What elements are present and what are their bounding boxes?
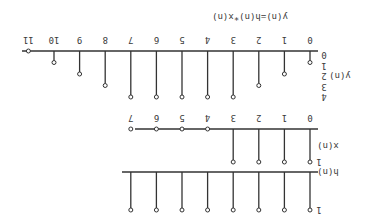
x-xtick-1: 1	[282, 113, 287, 123]
y-stem-marker	[129, 95, 133, 99]
h-stem-marker	[154, 208, 158, 212]
x-xtick-4: 4	[205, 113, 210, 123]
y-stem-marker	[154, 95, 158, 99]
y-xtick-10: 10	[49, 35, 60, 45]
h-ylabel: h(n)	[317, 167, 339, 177]
y-stem-marker	[257, 84, 261, 88]
x-stem-marker	[129, 127, 133, 131]
x-xtick-7: 7	[128, 113, 133, 123]
x-xtick-0: 0	[307, 113, 312, 123]
y-ytick-3: 3	[321, 82, 326, 92]
y-xtick-9: 9	[77, 35, 82, 45]
h-stem-marker	[231, 208, 235, 212]
y-stem-marker	[231, 95, 235, 99]
convolution-figure: h(n)1x(n)101234567y(n)012340123456789101…	[0, 0, 377, 223]
y-ylabel: y(n)	[329, 71, 351, 81]
x-stem-marker	[231, 160, 235, 164]
x-xtick-5: 5	[179, 113, 184, 123]
y-xtick-11: 11	[23, 35, 34, 45]
x-stem-marker	[206, 127, 210, 131]
y-stem-marker	[26, 49, 30, 53]
y-stem-marker	[52, 61, 56, 65]
stem-plots: h(n)1x(n)101234567y(n)012340123456789101…	[0, 0, 377, 223]
x-stem-marker	[282, 160, 286, 164]
y-xtick-5: 5	[179, 35, 184, 45]
x-xtick-2: 2	[256, 113, 261, 123]
h-stem-marker	[129, 208, 133, 212]
y-xtick-1: 1	[282, 35, 287, 45]
y-xtick-7: 7	[128, 35, 133, 45]
h-stem-marker	[206, 208, 210, 212]
y-xtick-6: 6	[154, 35, 159, 45]
y-ytick-2: 2	[321, 71, 326, 81]
x-stem-marker	[180, 127, 184, 131]
y-stem-marker	[180, 95, 184, 99]
y-stem-marker	[206, 95, 210, 99]
y-ytick-1: 1	[321, 61, 326, 71]
y-xtick-4: 4	[205, 35, 210, 45]
x-stem-marker	[308, 160, 312, 164]
y-stem-marker	[282, 72, 286, 76]
h-stem-marker	[282, 208, 286, 212]
x-ytick-1: 1	[316, 157, 321, 167]
y-title: y(n)=h(n)*x(n)	[212, 12, 288, 22]
h-stem-marker	[180, 208, 184, 212]
h-stem-marker	[308, 208, 312, 212]
y-stem-marker	[103, 84, 107, 88]
y-xtick-0: 0	[307, 35, 312, 45]
y-stem-marker	[308, 61, 312, 65]
h-stem-marker	[257, 208, 261, 212]
x-ylabel: x(n)	[317, 141, 339, 151]
y-xtick-2: 2	[256, 35, 261, 45]
x-xtick-3: 3	[230, 113, 235, 123]
y-xtick-3: 3	[230, 35, 235, 45]
x-xtick-6: 6	[154, 113, 159, 123]
y-ytick-4: 4	[321, 92, 326, 102]
y-xtick-8: 8	[102, 35, 107, 45]
y-stem-marker	[78, 72, 82, 76]
y-ytick-0: 0	[321, 50, 326, 60]
x-stem-marker	[154, 127, 158, 131]
h-ytick-1: 1	[316, 205, 321, 215]
x-stem-marker	[257, 160, 261, 164]
